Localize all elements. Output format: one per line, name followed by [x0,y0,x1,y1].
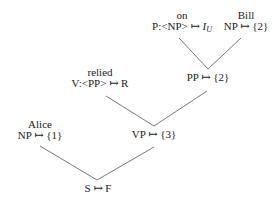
node-alice: Alice NP ↦ {1} [18,119,62,141]
category-bill: NP ↦ {2} [224,21,268,32]
edge-alice-s [40,146,97,180]
category-pp: PP ↦ {2} [187,72,230,83]
edge-on-pp [179,38,208,69]
node-relied: relied V:<PP> ↦ R [72,67,129,89]
category-alice: NP ↦ {1} [18,130,62,141]
edge-vp-s [97,147,154,180]
node-bill: Bill NP ↦ {2} [224,10,268,32]
edge-relied-vp [106,96,154,126]
node-pp: PP ↦ {2} [187,72,230,83]
category-vp: VP ↦ {3} [132,129,176,140]
category-relied: V:<PP> ↦ R [72,78,129,89]
node-on: on P:<NP> ↦ IU [152,10,212,32]
category-on: P:<NP> ↦ IU [152,21,212,32]
edge-pp-vp [154,91,207,126]
node-vp: VP ↦ {3} [132,129,176,140]
edge-bill-pp [208,38,241,69]
node-s: S ↦ F [85,183,112,194]
category-s: S ↦ F [85,183,112,194]
